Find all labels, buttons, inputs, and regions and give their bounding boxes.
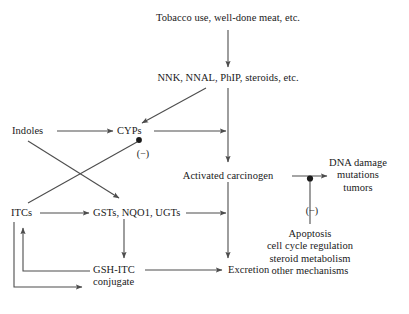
edge-gsh-itc-to-itcs-feedback [23,228,90,271]
dna-damage-inhibition-label: (−) [306,205,318,216]
node-tobacco-use: Tobacco use, well-done meat, etc. [156,12,300,24]
node-gsh-itc-conjugate: GSH-ITC conjugate [93,264,135,289]
node-apoptosis-mechanisms: Apoptosis cell cycle regulation steroid … [267,228,353,278]
inhibition-ball-dna-damage [307,175,313,181]
node-activated-carcinogen: Activated carcinogen [183,170,274,182]
node-cyps: CYPs [117,125,142,137]
node-gsts-nqo1-ugts: GSTs, NQO1, UGTs [93,207,180,219]
inhibition-ball-cyps [136,137,142,143]
edge-indoles-to-gsts [28,141,119,198]
node-indoles: Indoles [12,125,43,137]
node-nnk-nnal-phip: NNK, NNAL, PhIP, steroids, etc. [157,72,298,84]
cyp-inhibition-label: (−) [137,148,149,159]
edge-nnk-to-cyps [142,88,206,123]
node-itcs: ITCs [11,207,32,219]
pathway-diagram: Tobacco use, well-done meat, etc. NNK, N… [0,0,409,314]
node-dna-damage-mutations-tumors: DNA damage mutations tumors [329,157,387,194]
edge-itcs-to-cyps-inhibition [28,142,137,203]
edge-itcs-to-gsh-itc-feedback [14,222,82,287]
node-excretion: Excretion [228,264,269,276]
